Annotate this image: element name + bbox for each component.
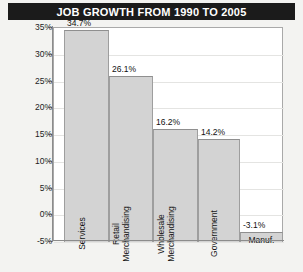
bar-value-label: 34.7% xyxy=(67,18,91,28)
bar: Services xyxy=(64,30,109,242)
bar: RetailMerchandising xyxy=(109,76,153,242)
y-tick-label: 5% xyxy=(8,183,52,193)
bar-category-label-line: Wholesale xyxy=(157,206,167,261)
bar-value-label: -3.1% xyxy=(243,220,265,230)
bar-value-label: 26.1% xyxy=(112,64,136,74)
plot-area: ServicesRetailMerchandisingWholesaleMerc… xyxy=(53,27,283,241)
bar-value-label: 14.2% xyxy=(201,127,225,137)
bar-category-label-line: Merchandising xyxy=(122,206,132,261)
y-axis-ticks: 35%30%25%20%15%10%5%0%-5% xyxy=(0,0,52,272)
bar-category-label: Government xyxy=(210,211,220,258)
bar-category-label-line: Government xyxy=(210,211,220,258)
bars-layer: ServicesRetailMerchandisingWholesaleMerc… xyxy=(54,28,282,240)
y-tick-label: 30% xyxy=(8,49,52,59)
x-axis-line xyxy=(52,240,284,241)
bar: Government xyxy=(198,139,240,242)
y-tick-label: 0% xyxy=(8,209,52,219)
y-tick-label: 20% xyxy=(8,102,52,112)
bar-category-label-line: Merchandising xyxy=(166,206,176,261)
y-tick-label: 35% xyxy=(8,22,52,32)
bar-category-label-line: Services xyxy=(77,218,87,251)
y-tick-label: 10% xyxy=(8,156,52,166)
job-growth-bar-chart: JOB GROWTH FROM 1990 TO 2005 ServicesRet… xyxy=(0,0,303,272)
y-tick-label: 15% xyxy=(8,129,52,139)
bar-category-label: Services xyxy=(77,218,87,251)
y-tick-label: -5% xyxy=(8,236,52,246)
bar-value-label: 16.2% xyxy=(156,117,180,127)
bar-category-label: WholesaleMerchandising xyxy=(157,206,176,261)
y-tick-label: 25% xyxy=(8,76,52,86)
bar-category-label: RetailMerchandising xyxy=(112,206,131,261)
bar: WholesaleMerchandising xyxy=(153,129,198,242)
